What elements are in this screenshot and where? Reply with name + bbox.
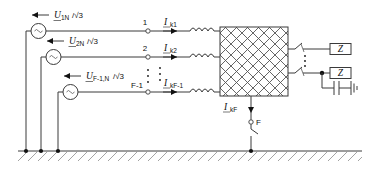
ground-dot-2 bbox=[39, 149, 43, 153]
ellipsis-switch-column bbox=[304, 55, 306, 67]
source-branch-1 bbox=[24, 24, 220, 154]
source-2-label: U 2N /√3 bbox=[47, 36, 99, 47]
ellipsis-node-column bbox=[159, 67, 161, 81]
current-kf-symbol: I bbox=[223, 102, 228, 112]
feeder-switch-2-blade[interactable] bbox=[295, 67, 302, 73]
ground-symbol-right bbox=[351, 81, 357, 95]
ground-dot-4 bbox=[249, 149, 253, 153]
current-k1-label: I k1 bbox=[163, 17, 177, 28]
source-2-divisor: /√3 bbox=[87, 37, 99, 46]
current-k1-symbol: I bbox=[163, 17, 168, 27]
source-2-subscript: 2N bbox=[76, 40, 85, 47]
current-k2-symbol: I bbox=[163, 43, 168, 53]
load-box-1-symbol: Z bbox=[338, 44, 344, 54]
source-branch-f-1 bbox=[56, 85, 220, 154]
current-kf-subscript: kF bbox=[230, 106, 237, 113]
node-1-marker bbox=[146, 29, 150, 33]
network-block bbox=[220, 27, 288, 96]
inductor-2-icon bbox=[190, 54, 214, 57]
source-branch-2 bbox=[39, 50, 220, 154]
current-kf-1-symbol: I bbox=[163, 78, 168, 88]
current-k2-subscript: k2 bbox=[170, 47, 177, 54]
feeder-switch-2-contact bbox=[301, 68, 304, 76]
source-f-1-divisor: /√3 bbox=[113, 72, 125, 81]
node-f-1-label: F-1 bbox=[131, 81, 144, 90]
source-1-subscript: 1N bbox=[61, 14, 70, 21]
load-box-2-symbol: Z bbox=[338, 68, 344, 78]
source-1-divisor: /√3 bbox=[72, 11, 84, 20]
current-k2-label: I k2 bbox=[163, 43, 177, 54]
node-f-marker bbox=[249, 120, 253, 124]
circuit-diagram: Z Z bbox=[0, 0, 380, 179]
earth-rail bbox=[18, 151, 362, 161]
current-kf-1-label: I kF-1 bbox=[163, 78, 183, 89]
circuit-canvas: Z Z bbox=[0, 0, 380, 179]
inductor-3-icon bbox=[190, 89, 214, 92]
inductor-1-icon bbox=[190, 28, 214, 31]
ground-dot-1 bbox=[24, 149, 28, 153]
current-kf-label: I kF bbox=[223, 102, 237, 113]
current-kf-1-subscript: kF-1 bbox=[170, 82, 183, 89]
current-k1-subscript: k1 bbox=[170, 21, 177, 28]
source-f-1-subscript: F-1,N bbox=[93, 75, 110, 82]
node-2-label: 2 bbox=[143, 44, 148, 53]
source-1-label: U 1N /√3 bbox=[32, 10, 84, 21]
ground-dot-3 bbox=[56, 149, 60, 153]
ellipsis-source-column bbox=[147, 69, 149, 83]
feeder-switch-1-contact bbox=[301, 44, 304, 52]
feeder-branch-2: Z bbox=[288, 67, 357, 95]
node-1-label: 1 bbox=[143, 18, 148, 27]
node-2-marker bbox=[146, 55, 150, 59]
fault-switch-blade[interactable] bbox=[251, 129, 258, 134]
node-f-label: F bbox=[256, 118, 261, 127]
node-f-1-marker bbox=[146, 90, 150, 94]
feeder-branch-1: Z bbox=[288, 43, 351, 55]
source-f-1-label: U F-1,N /√3 bbox=[64, 71, 125, 82]
feeder-switch-1-blade[interactable] bbox=[295, 43, 302, 49]
